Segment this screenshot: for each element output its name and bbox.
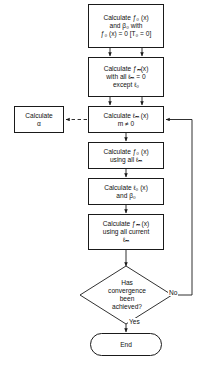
calculate-alpha-box: Calculate α [14, 106, 64, 133]
calculate-l0-beta0-box: Calculate ℓ₀ (x) and β₀ [88, 178, 164, 205]
box-fm-init-line-1: Calculate ƒₘ(x) [104, 65, 149, 73]
box-alpha-line-2: α [37, 120, 41, 128]
calculate-fm-initial-box: Calculate ƒₘ(x) with all ℓₘ = 0 except ℓ… [88, 57, 164, 97]
box-fm-init-line-3: except ℓ₀ [113, 81, 139, 89]
box-init-line-3: ƒ₀ (x) = 0 [T₀ = 0] [101, 30, 152, 38]
box-lm-line-2: m ≠ 0 [118, 120, 134, 128]
calculate-f0-beta0-box: Calculate ƒ₀ (x) and β₀ with ƒ₀ (x) = 0 … [88, 4, 164, 48]
decision-line-3: been [120, 295, 135, 303]
decision-line-1: Has [121, 279, 133, 287]
box-fm-init-line-2: with all ℓₘ = 0 [106, 73, 145, 81]
decision-line-2: convergence [108, 287, 146, 295]
box-lm-line-1: Calculate ℓₘ (x) [104, 112, 149, 120]
box-f0-line-1: Calculate ƒ₀ (x) [103, 148, 148, 156]
calculate-fm-current-box: Calculate ƒₘ (x) using all current ℓₘ [88, 214, 164, 250]
edge-label-yes: Yes [128, 318, 141, 325]
box-init-line-1: Calculate ƒ₀ (x) [103, 14, 148, 22]
box-fm-cur-line-3: ℓₘ [123, 236, 129, 244]
end-terminator-label: End [120, 341, 132, 349]
convergence-decision-label: Has convergence been achieved? [82, 266, 172, 324]
edge-label-no: No [168, 289, 178, 296]
box-init-line-2: and β₀ with [110, 22, 143, 30]
box-f0-line-2: using all ℓₘ [110, 156, 142, 164]
box-fm-cur-line-2: using all current [103, 228, 150, 236]
box-alpha-line-1: Calculate [25, 112, 53, 120]
calculate-f0-using-lm-box: Calculate ƒ₀ (x) using all ℓₘ [88, 142, 164, 169]
decision-line-4: achieved? [112, 303, 142, 311]
calculate-lm-box: Calculate ℓₘ (x) m ≠ 0 [88, 106, 164, 133]
box-l0-line-2: and β₀ [116, 192, 135, 200]
end-terminator: End [90, 333, 162, 356]
box-l0-line-1: Calculate ℓ₀ (x) [104, 184, 148, 192]
box-fm-cur-line-1: Calculate ƒₘ (x) [103, 220, 150, 228]
